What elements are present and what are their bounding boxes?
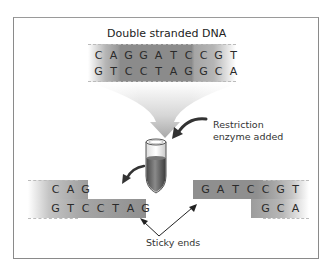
base: A (63, 183, 78, 196)
base: G (198, 183, 213, 196)
base: T (63, 202, 78, 215)
base: C (181, 49, 196, 62)
base: A (151, 49, 166, 62)
enzyme-label: Restriction enzyme added (213, 119, 283, 143)
base: C (91, 49, 106, 62)
base: G (181, 65, 196, 78)
base: A (213, 183, 228, 196)
base: C (78, 202, 93, 215)
left-dna-fragment: CAG GTCCTAG (28, 180, 146, 218)
enzyme-arrow-icon (168, 115, 208, 145)
base: G (91, 65, 106, 78)
left-fragment-top-strand: CAG (48, 183, 93, 196)
diagram-title: Double stranded DNA (107, 27, 226, 40)
base: C (93, 202, 108, 215)
base: T (108, 202, 123, 215)
base: C (196, 49, 211, 62)
base: G (136, 49, 151, 62)
base: T (288, 183, 303, 196)
base: G (211, 49, 226, 62)
base: G (121, 49, 136, 62)
base: T (166, 49, 181, 62)
sticky-ends-label: Sticky ends (146, 237, 200, 249)
base: A (226, 65, 241, 78)
base: T (151, 65, 166, 78)
base: C (136, 65, 151, 78)
base: T (228, 183, 243, 196)
base: T (226, 49, 241, 62)
base: G (78, 183, 93, 196)
dna-bottom-strand: GTCCTAGGCA (91, 65, 241, 78)
base: G (258, 202, 273, 215)
base: T (106, 65, 121, 78)
base: A (166, 65, 181, 78)
right-fragment-bottom-strand: GCA (258, 202, 303, 215)
base: G (196, 65, 211, 78)
base: C (121, 65, 136, 78)
base: C (258, 183, 273, 196)
base: C (211, 65, 226, 78)
dna-top-strand: CAGGATCCGT (91, 49, 241, 62)
sticky-ends-arrows-icon (135, 200, 205, 240)
enzyme-label-line1: Restriction (213, 119, 283, 131)
base: C (243, 183, 258, 196)
base: C (48, 183, 63, 196)
right-fragment-top-strand: GATCCGT (198, 183, 303, 196)
base: A (106, 49, 121, 62)
enzyme-label-line2: enzyme added (213, 131, 283, 143)
right-dna-fragment: GATCCGT GCA (193, 180, 309, 218)
base: G (273, 183, 288, 196)
base: C (273, 202, 288, 215)
base: A (288, 202, 303, 215)
base: G (48, 202, 63, 215)
dna-double-strand: CAGGATCCGT GTCCTAGGCA (88, 44, 236, 82)
